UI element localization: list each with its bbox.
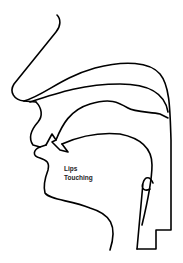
- nasal-cavity-roof: [24, 63, 171, 249]
- label-line-2: Touching: [64, 173, 93, 182]
- upper-lip: [31, 102, 46, 147]
- lower-lip: [34, 147, 113, 250]
- lips-touching-label: Lips Touching: [64, 164, 93, 182]
- label-line-1: Lips: [64, 164, 93, 173]
- vocal-tract-diagram: [0, 0, 183, 263]
- nose-outline: [12, 15, 60, 102]
